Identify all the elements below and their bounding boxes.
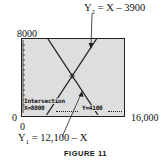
x-axis-max-label: 16,000 [131,112,159,123]
x-readout: X=8000 [24,105,44,111]
y2-symbol: Y [84,2,92,13]
x-axis-min-label: 0 [20,121,25,132]
x-axis-origin-left-label: 0 [12,112,17,123]
y2-equation-text: = X – 3900 [95,2,145,13]
y2-equation-label: Y2 = X – 3900 [84,2,145,16]
x-axis-dashes-2 [108,111,122,112]
calculator-screen: Intersection X=8000 Y=4100 [21,38,125,117]
y1-equation-label: Y1 = 12,100 – X [18,132,87,146]
y1-equation-text: = 12,100 – X [29,132,87,143]
figure-caption: FIGURE 11 [64,149,107,158]
x-axis-dashes-1 [56,111,78,112]
y-readout: Y=4100 [82,105,102,111]
y1-symbol: Y [18,132,26,143]
